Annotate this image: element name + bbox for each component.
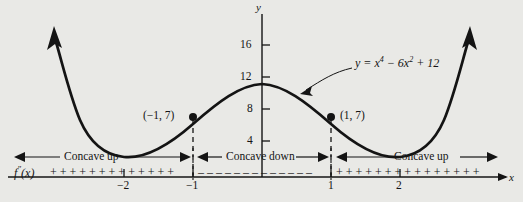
- sign-row-right-positive: + + + + + + + + + + + + + + +: [336, 166, 480, 178]
- curve-arrowhead-right: [462, 26, 477, 50]
- figure-concavity-quartic: y x 16 12 8 4 −2 −1 1 2 (−1, 7) (1, 7) y…: [0, 0, 523, 202]
- y-axis-label: y: [256, 2, 261, 13]
- fpp-arg: (x): [21, 166, 34, 180]
- equation-middle: − 6x: [384, 56, 409, 70]
- region-label-concave-down: Concave down: [226, 151, 295, 163]
- equation-leader-arrowhead: [300, 86, 313, 96]
- x-tick-label-minus2: −2: [117, 180, 129, 192]
- y-tick-label-8: 8: [247, 103, 253, 115]
- y-tick-label-4: 4: [247, 135, 253, 147]
- x-tick-label-2: 2: [396, 180, 402, 192]
- region-label-concave-up-right: Concave up: [394, 151, 449, 163]
- equation-base: y = x: [355, 56, 380, 70]
- point-label-left: (−1, 7): [143, 110, 174, 122]
- second-derivative-label: f″(x): [14, 165, 34, 179]
- y-tick-label-16: 16: [240, 39, 252, 51]
- curve-arrowhead-left: [47, 26, 62, 50]
- region-label-concave-up-left: Concave up: [64, 151, 119, 163]
- x-axis-label: x: [509, 172, 514, 183]
- equation-label: y = x4 − 6x2 + 12: [355, 56, 439, 69]
- equation-leader-line: [306, 68, 352, 90]
- x-tick-label-1: 1: [328, 180, 334, 192]
- y-tick-label-12: 12: [240, 71, 252, 83]
- sign-row-left-positive: + + + + + + + + + + + + +: [50, 166, 174, 178]
- x-tick-label-minus1: −1: [186, 180, 198, 192]
- x-axis-arrowhead: [498, 173, 508, 181]
- point-label-right: (1, 7): [340, 110, 365, 122]
- sign-row-middle-negative: – – – – – – – – – – – – –: [198, 166, 312, 178]
- equation-tail: + 12: [413, 56, 439, 70]
